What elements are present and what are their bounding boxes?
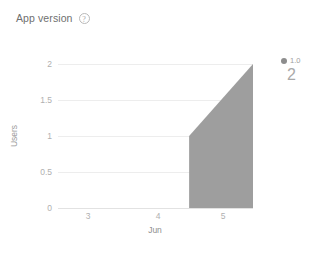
y-tick-label: 1.5 [14,95,58,105]
plot-area [58,64,253,208]
area-series-1-0 [58,64,253,208]
x-axis-title: Jun [148,225,162,235]
x-axis-line [58,208,253,209]
legend-item[interactable]: 1.0 [281,56,316,65]
page-title: App version [16,12,73,24]
x-axis-ticks: 3 4 5 [58,211,253,225]
x-tick-label: 3 [86,211,91,221]
y-tick-label: 0 [14,203,58,213]
chart-legend: 1.0 2 [281,56,316,84]
question-circle-icon[interactable]: ? [79,13,90,24]
legend-item-label: 1.0 [290,56,300,65]
chart-header: App version ? [16,12,90,24]
y-tick-label: 1 [14,131,58,141]
y-axis-title: Users [9,125,19,147]
x-tick-label: 5 [221,211,226,221]
legend-total-value: 2 [281,66,316,84]
app-version-chart-card: App version ? 2 1.5 1 0.5 0 Users 3 4 5 … [0,0,316,256]
x-tick-label: 4 [156,211,161,221]
legend-marker-dot [281,58,287,64]
y-tick-label: 0.5 [14,167,58,177]
y-tick-label: 2 [14,59,58,69]
